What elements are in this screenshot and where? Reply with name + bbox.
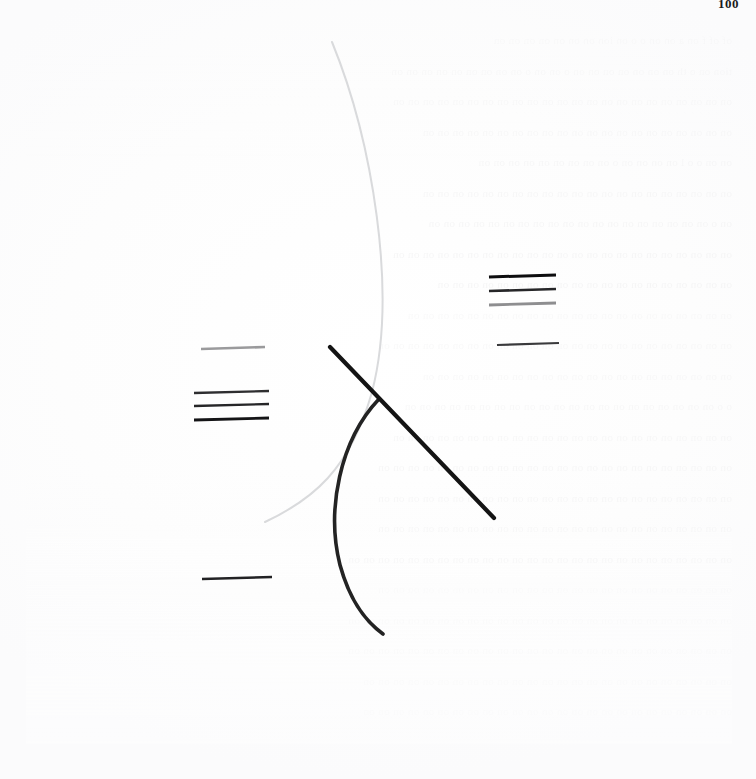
left-horizontal-rule-group [194,347,269,420]
scanned-page: of of f on a on on o o on ion on on on o… [0,0,756,779]
horizontal-rule [489,303,556,305]
dark-short-arc [335,399,383,634]
horizontal-rule [489,275,556,277]
horizontal-rule [201,347,265,349]
horizontal-rule [194,418,269,420]
rules-group [194,275,559,579]
horizontal-rule [202,577,272,579]
page-number: 100 [718,0,739,12]
lower-left-single-rule [202,577,272,579]
horizontal-rule [194,391,269,393]
light-gray-long-arc [265,42,382,522]
figure-svg [0,0,756,779]
right-horizontal-rule-group [489,275,559,345]
horizontal-rule [497,343,559,345]
horizontal-rule [194,404,269,406]
horizontal-rule [489,289,556,291]
curve-group [265,42,494,634]
